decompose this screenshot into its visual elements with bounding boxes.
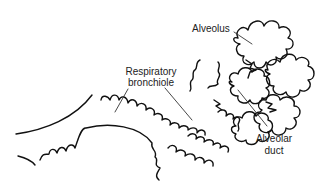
airway-diagram: Alveolus Respiratory bronchiole Alveolar… [0, 0, 322, 186]
alveolus-cluster-right [265, 54, 314, 97]
alveolar-sac-left-2 [208, 62, 220, 88]
airway-drawing [0, 0, 322, 186]
respiratory-bronchiole-label-line1: Respiratory [119, 66, 183, 77]
alveolar-duct-leader [238, 90, 267, 126]
alveolus-cluster-top [234, 21, 293, 68]
respiratory-bronchiole-label-line2: bronchiole [119, 77, 183, 88]
alveolar-duct-lower [168, 145, 213, 166]
alveolar-duct-label-line1: Alveolar [252, 133, 296, 144]
respiratory-bronchiole-leader-2 [165, 88, 192, 120]
respiratory-bronchiole-upper [101, 95, 205, 135]
junction-star-2 [266, 102, 276, 112]
bronchiole-wall-upper [16, 95, 92, 134]
alveolar-duct-mid [188, 134, 228, 152]
alveolus-label: Alveolus [192, 23, 230, 34]
respiratory-bronchiole-leader-1 [115, 89, 128, 112]
alveolar-sac-small-right [218, 110, 240, 131]
alveolus-cluster-lower [254, 95, 300, 135]
bronchiole-wall-lower [18, 156, 35, 165]
junction-star-3 [214, 100, 222, 110]
bronchiole-wall-lower-2 [40, 125, 160, 180]
alveolar-duct-label-line2: duct [252, 145, 296, 156]
alveolar-sac-left-1 [190, 60, 200, 91]
